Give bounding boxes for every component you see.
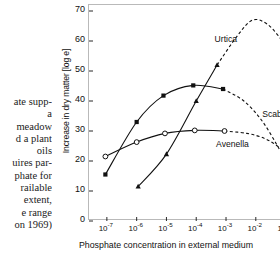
y-axis-tick-labels: 010203040506070: [52, 0, 85, 216]
series-scabiosa: [103, 83, 280, 176]
x-axis-label: Phosphate concentration in external medi…: [52, 240, 280, 250]
caption-line: railable: [0, 182, 52, 194]
y-tick-label: 70: [75, 4, 85, 14]
y-tick-label: 10: [75, 184, 85, 194]
x-tick-label: 10-7: [95, 224, 117, 233]
series-label-scabiosa: Scabiosa: [262, 109, 280, 119]
caption-line: meadow: [0, 121, 52, 133]
caption-line: a: [0, 108, 52, 120]
x-tick-label: 10-5: [154, 224, 176, 233]
caption-line: on 1969): [0, 219, 52, 231]
y-tick-label: 0: [80, 214, 85, 224]
x-tick-label: 10-1: [274, 224, 280, 233]
x-tick-label: 10-4: [184, 224, 206, 233]
y-tick-label: 30: [75, 124, 85, 134]
series-label-urtica: Urtica: [215, 34, 237, 44]
y-tick-label: 40: [75, 94, 85, 104]
x-tick-label: 10-3: [214, 224, 236, 233]
caption-line: ate supp-: [0, 96, 52, 108]
caption-line: uires par-: [0, 157, 52, 169]
caption-line: d a plant: [0, 133, 52, 145]
plot-area: [88, 4, 280, 220]
y-tick-label: 20: [75, 154, 85, 164]
series-urtica: [136, 19, 280, 188]
y-tick-label: 60: [75, 34, 85, 44]
figure-root: ate supp- a meadow d a plant oils uires …: [0, 0, 280, 255]
x-tick-label: 10-6: [125, 224, 147, 233]
x-tick-label: 10-2: [244, 224, 266, 233]
caption-line: phate for: [0, 170, 52, 182]
caption-line: oils: [0, 145, 52, 157]
y-tick-label: 50: [75, 64, 85, 74]
caption-line: extent,: [0, 194, 52, 206]
caption-line: e range: [0, 207, 52, 219]
caption-text-fragment: ate supp- a meadow d a plant oils uires …: [0, 96, 52, 231]
plot-canvas: [89, 5, 280, 221]
series-label-avenella: Avenella: [216, 139, 249, 149]
chart-figure: Increase in dry matter [log e] 010203040…: [52, 0, 280, 255]
